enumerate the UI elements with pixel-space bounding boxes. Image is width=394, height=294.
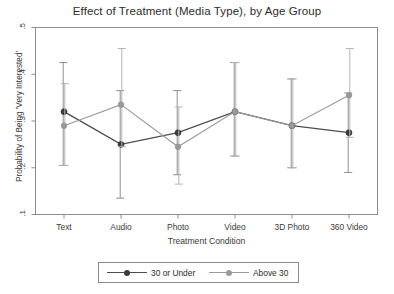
x-tick-marks — [64, 215, 349, 219]
x-tick-label: 3D Photo — [275, 222, 310, 232]
data-point — [118, 102, 124, 108]
data-point — [61, 123, 67, 129]
x-tick-label: Audio — [110, 222, 131, 232]
x-tick-label: 360 Video — [330, 222, 368, 232]
y-tick-label: .1 — [17, 205, 26, 221]
x-tick-label: Photo — [167, 222, 189, 232]
series-under30 — [59, 63, 352, 199]
data-point — [175, 130, 181, 136]
legend-item-0: 30 or Under — [107, 263, 195, 282]
series-above30 — [61, 49, 354, 185]
data-point — [289, 123, 295, 129]
y-tick-label: .2 — [17, 158, 26, 174]
legend-label-1: Above 30 — [253, 268, 288, 278]
series-line — [64, 95, 349, 146]
x-tick-label: Text — [56, 222, 71, 232]
legend-line-swatch-1 — [209, 268, 249, 277]
data-point — [346, 130, 352, 136]
legend: 30 or Under Above 30 — [98, 262, 299, 283]
error-bar — [118, 49, 126, 147]
y-tick-marks — [32, 28, 36, 215]
y-tick-label: .4 — [17, 65, 26, 81]
plot-frame — [36, 28, 378, 215]
y-tick-label: .5 — [17, 18, 26, 34]
legend-label-0: 30 or Under — [151, 268, 195, 278]
series-layer — [59, 49, 354, 199]
legend-item-1: Above 30 — [209, 263, 288, 282]
data-point — [346, 92, 352, 98]
legend-line-swatch-0 — [107, 268, 147, 277]
y-tick-label: .3 — [17, 112, 26, 128]
data-point — [175, 144, 181, 150]
data-point — [232, 109, 238, 115]
chart-figure: Effect of Treatment (Media Type), by Age… — [0, 0, 394, 294]
series-line — [64, 112, 349, 145]
x-tick-label: Video — [224, 222, 245, 232]
data-point — [61, 109, 67, 115]
plot-area — [0, 0, 394, 294]
